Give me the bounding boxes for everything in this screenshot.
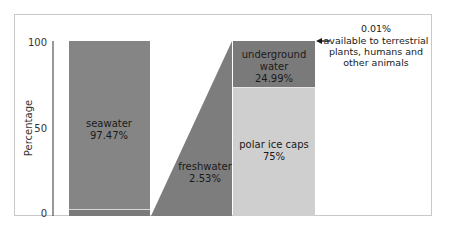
annotation-line-1: 0.01% xyxy=(361,23,391,34)
annotation-line-3: plants, humans and xyxy=(329,46,423,57)
y-tick-0: 0 xyxy=(41,208,47,219)
seawater-divider xyxy=(69,209,150,210)
seawater-label: seawater xyxy=(86,118,133,129)
freshwater-label: freshwater xyxy=(178,161,232,172)
annotation-line-4: other animals xyxy=(343,57,409,68)
y-tick-50: 50 xyxy=(34,123,47,134)
water-distribution-chart: 100 50 0 Percentage seawater 97.47% fres… xyxy=(0,0,450,240)
polar-label: polar ice caps xyxy=(239,139,308,150)
y-axis-label: Percentage xyxy=(23,100,34,156)
breakdown-divider xyxy=(233,87,315,88)
freshwater-value: 2.53% xyxy=(189,173,221,184)
underground-label-line1: underground xyxy=(242,49,307,60)
underground-value: 24.99% xyxy=(255,73,293,84)
y-tick-100: 100 xyxy=(28,37,47,48)
seawater-value: 97.47% xyxy=(90,130,128,141)
underground-label-line2: water xyxy=(260,61,289,72)
freshwater-portion-bar xyxy=(69,210,150,216)
freshwater-wedge xyxy=(151,41,232,216)
polar-value: 75% xyxy=(263,151,285,162)
annotation-line-2: available to terrestrial xyxy=(324,35,429,46)
